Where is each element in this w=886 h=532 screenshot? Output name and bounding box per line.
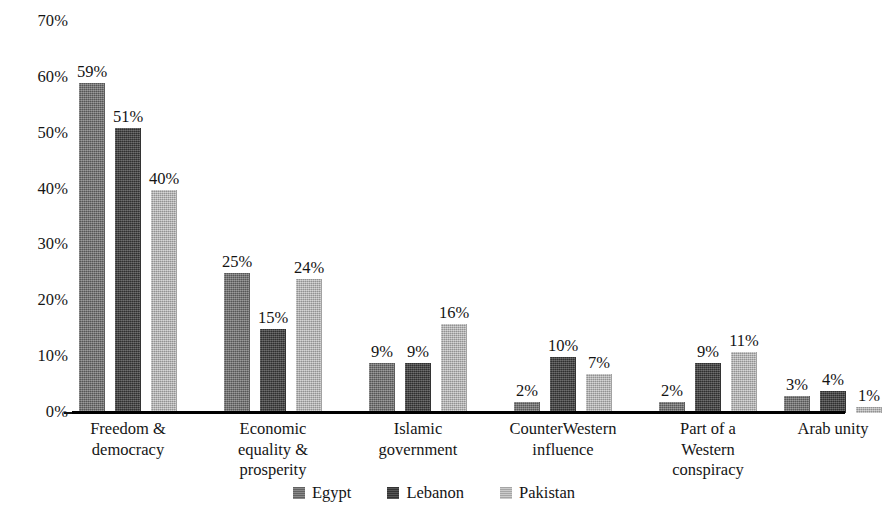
bar-pakistan[interactable] <box>151 190 177 413</box>
y-axis-tick-label: 10% <box>14 348 68 364</box>
bar-egypt[interactable] <box>369 363 395 413</box>
bar-pakistan[interactable] <box>856 407 882 413</box>
bar-value-label: 9% <box>396 343 440 360</box>
bar-group: 25%15%24% <box>224 22 322 413</box>
legend: EgyptLebanonPakistan <box>0 484 868 501</box>
bar-value-label: 15% <box>251 309 295 326</box>
bar-group: 9%9%16% <box>369 22 467 413</box>
category-label-line: Islamic <box>347 419 489 440</box>
bar-egypt[interactable] <box>79 83 105 413</box>
category-label-line: CounterWestern <box>492 419 634 440</box>
bar-value-label: 11% <box>722 332 766 349</box>
bar-lebanon[interactable] <box>550 357 576 413</box>
bar-value-label: 25% <box>215 253 259 270</box>
bar-lebanon[interactable] <box>820 391 846 413</box>
legend-item-pakistan[interactable]: Pakistan <box>500 484 575 501</box>
category-label-line: democracy <box>57 440 199 461</box>
bar-value-label: 10% <box>541 337 585 354</box>
bar-lebanon[interactable] <box>115 128 141 413</box>
category-label-line: Part of a <box>637 419 779 440</box>
y-axis-tick-label: 60% <box>14 69 68 85</box>
category-label-line: equality & <box>202 440 344 461</box>
y-axis-tick-label: 50% <box>14 125 68 141</box>
bar-pakistan[interactable] <box>441 324 467 413</box>
category-label-line: government <box>347 440 489 461</box>
y-axis-tick-label: 40% <box>14 181 68 197</box>
bar-pakistan[interactable] <box>586 374 612 413</box>
bar-egypt[interactable] <box>224 273 250 413</box>
bar-value-label: 16% <box>432 304 476 321</box>
legend-swatch-icon <box>293 487 305 499</box>
plot-area: 59%51%40%25%15%24%9%9%16%2%10%7%2%9%11%3… <box>72 22 845 413</box>
bar-value-label: 51% <box>106 108 150 125</box>
category-label-line: Arab unity <box>762 419 886 440</box>
category-label-line: Western <box>637 440 779 461</box>
x-axis-category-label: Part of aWesternconspiracy <box>637 419 779 481</box>
x-axis-category-label: Freedom &democracy <box>57 419 199 460</box>
bar-value-label: 1% <box>847 387 886 404</box>
bar-value-label: 59% <box>70 63 114 80</box>
bar-group: 59%51%40% <box>79 22 177 413</box>
category-label-line: Economic <box>202 419 344 440</box>
legend-swatch-icon <box>500 487 512 499</box>
y-axis-tick-label: 30% <box>14 236 68 252</box>
bar-group: 2%9%11% <box>659 22 757 413</box>
legend-label: Pakistan <box>519 484 575 501</box>
x-axis-category-label: Arab unity <box>762 419 886 440</box>
y-axis-tick-label: 0% <box>14 404 68 420</box>
bar-lebanon[interactable] <box>695 363 721 413</box>
bar-pakistan[interactable] <box>296 279 322 413</box>
bar-value-label: 4% <box>811 371 855 388</box>
bar-value-label: 7% <box>577 354 621 371</box>
legend-label: Egypt <box>312 484 351 501</box>
bar-value-label: 24% <box>287 259 331 276</box>
y-axis-tick-label: 70% <box>14 13 68 29</box>
y-axis-tick-label: 20% <box>14 292 68 308</box>
legend-swatch-icon <box>387 487 399 499</box>
bar-pakistan[interactable] <box>731 352 757 413</box>
x-axis-line <box>72 411 845 414</box>
bar-value-label: 2% <box>505 382 549 399</box>
bar-lebanon[interactable] <box>260 329 286 413</box>
bar-group: 3%4%1% <box>784 22 882 413</box>
legend-item-egypt[interactable]: Egypt <box>293 484 351 501</box>
category-label-line: prosperity <box>202 460 344 481</box>
category-label-line: influence <box>492 440 634 461</box>
bar-lebanon[interactable] <box>405 363 431 413</box>
x-axis-category-label: Economicequality &prosperity <box>202 419 344 481</box>
category-label-line: conspiracy <box>637 460 779 481</box>
legend-label: Lebanon <box>406 484 464 501</box>
bar-group: 2%10%7% <box>514 22 612 413</box>
x-axis-category-label: CounterWesterninfluence <box>492 419 634 460</box>
legend-item-lebanon[interactable]: Lebanon <box>387 484 464 501</box>
bar-value-label: 2% <box>650 382 694 399</box>
x-axis-category-label: Islamicgovernment <box>347 419 489 460</box>
bar-value-label: 40% <box>142 170 186 187</box>
category-label-line: Freedom & <box>57 419 199 440</box>
